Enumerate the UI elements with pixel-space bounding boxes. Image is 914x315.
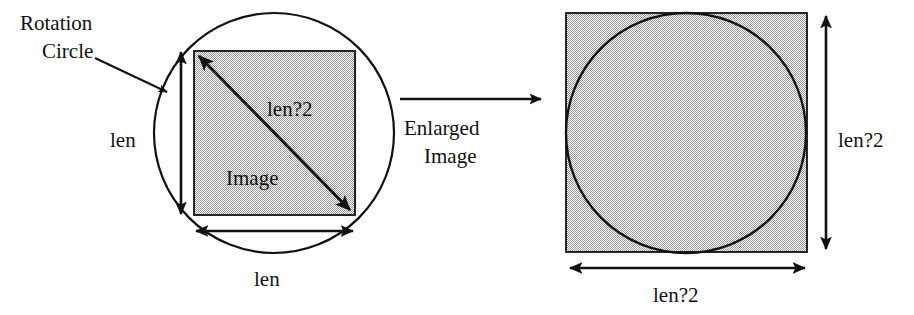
rotation-circle-leader-arrow <box>95 58 167 92</box>
figure-canvas: Rotation Circle len len len?2 Image Enla… <box>0 0 914 315</box>
right-diagram: len?2 len?2 <box>566 13 883 307</box>
rotation-circle-label-line2: Circle <box>42 39 93 63</box>
rotation-enlargement-diagram: Rotation Circle len len len?2 Image Enla… <box>0 0 914 315</box>
enlarged-label-line1: Enlarged <box>404 116 480 140</box>
left-bottom-len-label: len <box>254 267 280 291</box>
left-side-len-label: len <box>110 128 136 152</box>
left-diagonal-length-label: len?2 <box>267 97 312 121</box>
transform-arrow-group: Enlarged Image <box>400 99 541 168</box>
image-label: Image <box>226 166 278 190</box>
enlarged-label-line2: Image <box>424 144 476 168</box>
left-diagram: Rotation Circle len len len?2 Image <box>20 11 394 291</box>
right-vertical-length-label: len?2 <box>838 128 883 152</box>
right-bottom-length-label: len?2 <box>653 283 698 307</box>
rotation-circle-label-line1: Rotation <box>20 11 93 35</box>
